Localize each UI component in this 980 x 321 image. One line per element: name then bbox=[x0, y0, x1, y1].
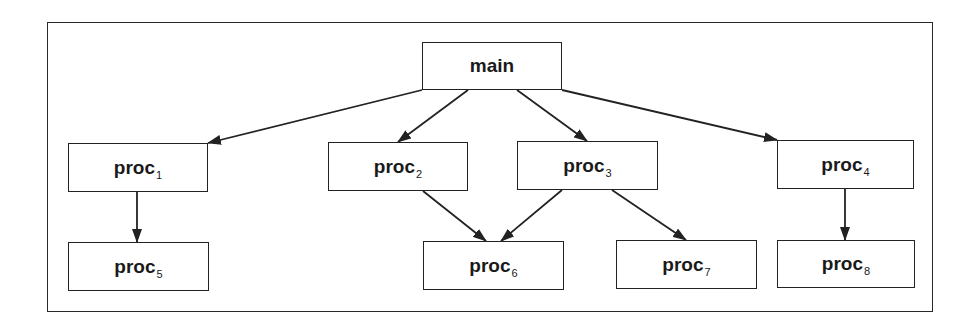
node-subscript: 2 bbox=[416, 168, 422, 180]
node-label: main bbox=[470, 55, 514, 77]
node-label: proc bbox=[114, 256, 155, 278]
node-proc4: proc4 bbox=[777, 140, 914, 189]
node-subscript: 4 bbox=[864, 166, 870, 178]
node-proc2: proc2 bbox=[328, 142, 468, 191]
node-label: proc bbox=[114, 157, 155, 179]
node-proc3: proc3 bbox=[517, 141, 658, 190]
node-subscript: 3 bbox=[606, 167, 612, 179]
node-main: main bbox=[422, 42, 562, 90]
node-subscript: 7 bbox=[705, 266, 711, 278]
node-proc8: proc8 bbox=[777, 240, 915, 288]
node-label: proc bbox=[563, 155, 604, 177]
node-label: proc bbox=[821, 154, 862, 176]
node-label: proc bbox=[662, 254, 703, 276]
node-proc6: proc6 bbox=[423, 241, 564, 290]
node-label: proc bbox=[822, 253, 863, 275]
node-subscript: 5 bbox=[157, 268, 163, 280]
node-proc7: proc7 bbox=[616, 240, 757, 289]
node-subscript: 8 bbox=[864, 265, 870, 277]
node-proc1: proc1 bbox=[68, 143, 208, 192]
node-subscript: 1 bbox=[156, 169, 162, 181]
node-label: proc bbox=[469, 255, 510, 277]
node-label: proc bbox=[374, 156, 415, 178]
node-proc5: proc5 bbox=[68, 242, 209, 291]
node-subscript: 6 bbox=[512, 267, 518, 279]
